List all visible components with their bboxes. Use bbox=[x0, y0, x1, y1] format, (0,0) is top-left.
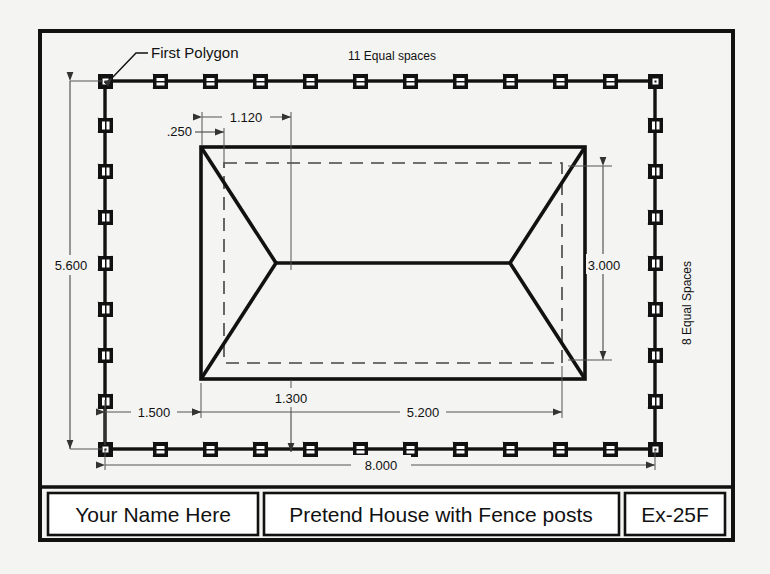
title-block-number-text: Ex-25F bbox=[641, 503, 709, 526]
fence-post bbox=[453, 442, 468, 457]
title-block: Your Name Here Pretend House with Fence … bbox=[40, 487, 733, 535]
fence-post bbox=[648, 164, 663, 179]
dimension-label-5200: 5.200 bbox=[407, 405, 440, 420]
fence-post bbox=[203, 74, 218, 89]
fence-post bbox=[648, 394, 663, 409]
drawing-sheet: 5.600 8.000 1.500 5.200 bbox=[0, 0, 770, 574]
dimension-label-1300: 1.300 bbox=[275, 391, 308, 406]
fence-post bbox=[453, 74, 468, 89]
dimension-label-1500: 1.500 bbox=[138, 405, 171, 420]
fence-post bbox=[98, 210, 113, 225]
annotation-top-equal-spaces: 11 Equal spaces bbox=[348, 49, 436, 63]
fence-post bbox=[603, 442, 618, 457]
fence-post bbox=[648, 118, 663, 133]
title-block-name-text: Your Name Here bbox=[75, 503, 231, 526]
fence-post-corner bbox=[648, 74, 663, 89]
fence-post bbox=[253, 74, 268, 89]
fence-post bbox=[503, 442, 518, 457]
fence-post bbox=[353, 74, 368, 89]
fence-post bbox=[648, 256, 663, 271]
annotation-side-equal-spaces: 8 Equal Spaces bbox=[680, 261, 694, 345]
fence-post bbox=[153, 442, 168, 457]
fence-post bbox=[603, 74, 618, 89]
fence-post bbox=[98, 256, 113, 271]
fence-post bbox=[303, 74, 318, 89]
dimension-label-1120: 1.120 bbox=[230, 110, 263, 125]
fence-post bbox=[353, 442, 368, 457]
fence-post bbox=[503, 74, 518, 89]
fence-post bbox=[253, 442, 268, 457]
fence-post bbox=[98, 302, 113, 317]
fence-post bbox=[553, 442, 568, 457]
dimension-label-5600: 5.600 bbox=[55, 258, 88, 273]
fence-post bbox=[98, 164, 113, 179]
fence-post bbox=[203, 442, 218, 457]
fence-post bbox=[648, 210, 663, 225]
dimension-label-8000: 8.000 bbox=[365, 458, 398, 473]
fence-post bbox=[98, 118, 113, 133]
fence-post bbox=[403, 74, 418, 89]
dimension-label-3000: 3.000 bbox=[588, 258, 621, 273]
fence-post bbox=[648, 302, 663, 317]
fence-post bbox=[648, 348, 663, 363]
fence-post bbox=[98, 348, 113, 363]
annotation-label-first-polygon: First Polygon bbox=[151, 44, 239, 61]
fence-post bbox=[403, 442, 418, 457]
title-block-description-text: Pretend House with Fence posts bbox=[289, 503, 593, 526]
fence-post bbox=[553, 74, 568, 89]
dimension-label-250: .250 bbox=[167, 124, 192, 139]
fence-post bbox=[303, 442, 318, 457]
fence-post bbox=[153, 74, 168, 89]
